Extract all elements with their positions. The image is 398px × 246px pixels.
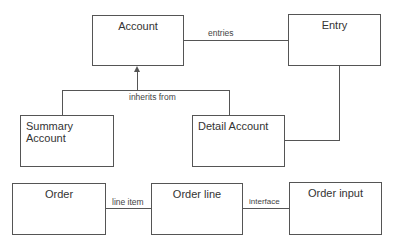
summary-account-label: Summary Account [21, 120, 113, 144]
entry-label: Entry [289, 19, 380, 31]
inherits-from-label: inherits from [129, 92, 176, 102]
inheritance-stem [137, 70, 138, 90]
order-input-label: Order input [290, 187, 381, 199]
line-item-connector [106, 208, 151, 209]
entry-detail-connector-vertical [339, 66, 340, 140]
interface-connector [243, 208, 289, 209]
summary-account-box: Summary Account [20, 115, 114, 167]
order-line-box: Order line [151, 183, 243, 235]
interface-label: interface [249, 197, 280, 206]
order-input-box: Order input [289, 182, 382, 235]
entries-label: entries [208, 28, 234, 38]
order-box: Order [12, 183, 106, 235]
account-box: Account [92, 15, 184, 66]
order-label: Order [13, 188, 105, 200]
entry-detail-connector-horizontal [285, 140, 340, 141]
inheritance-to-summary [62, 90, 63, 115]
detail-account-label: Detail Account [193, 120, 284, 132]
inheritance-to-detail [229, 90, 230, 115]
order-line-label: Order line [152, 188, 242, 200]
entry-box: Entry [288, 14, 381, 66]
account-label: Account [93, 20, 183, 32]
detail-account-box: Detail Account [192, 115, 285, 167]
entries-connector [184, 40, 288, 41]
inheritance-bar [62, 90, 230, 91]
line-item-label: line item [112, 197, 144, 207]
